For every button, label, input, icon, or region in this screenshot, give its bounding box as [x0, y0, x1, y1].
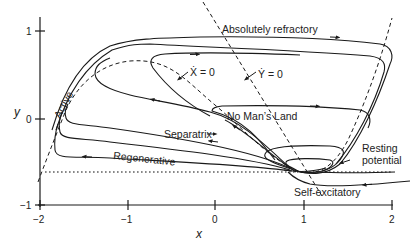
label-regenerative: Regenerative [113, 149, 177, 167]
label-resting-potential-line1: Resting [362, 142, 398, 154]
label-no-mans-land: No Man’s Land [227, 110, 298, 122]
x-tick-neg1: −1 [121, 214, 133, 225]
label-active: Active [51, 89, 75, 120]
x-tick-0: 0 [212, 214, 218, 225]
x-tick-neg2: −2 [33, 214, 45, 225]
label-resting-potential-line2: potential [362, 154, 402, 166]
y-tick-0: 0 [26, 114, 32, 125]
x-tick-2: 2 [389, 214, 395, 225]
y-tick-neg1: −1 [20, 200, 32, 211]
x-tick-1: 1 [301, 214, 307, 225]
y-tick-1: 1 [26, 26, 32, 37]
x-axis-label: x [195, 227, 203, 241]
trajectory-self-excitatory [288, 172, 410, 186]
label-x-nullcline: Ẋ = 0 [190, 66, 215, 78]
label-self-excitatory: Self-excitatory [294, 186, 361, 198]
trajectory-refractory-inner [56, 44, 385, 164]
label-y-nullcline: Ẏ = 0 [258, 68, 283, 80]
y-axis-label: y [13, 105, 21, 119]
label-separatrix: Separatrix [164, 128, 213, 140]
trajectory-absolutely-refractory [52, 37, 392, 174]
label-absolutely-refractory: Absolutely refractory [222, 23, 318, 35]
trajectory-upper-loop [151, 53, 300, 116]
phase-portrait-diagram: 1 0 −1 −2 −1 0 1 2 x y Absolutely ref [0, 0, 415, 249]
